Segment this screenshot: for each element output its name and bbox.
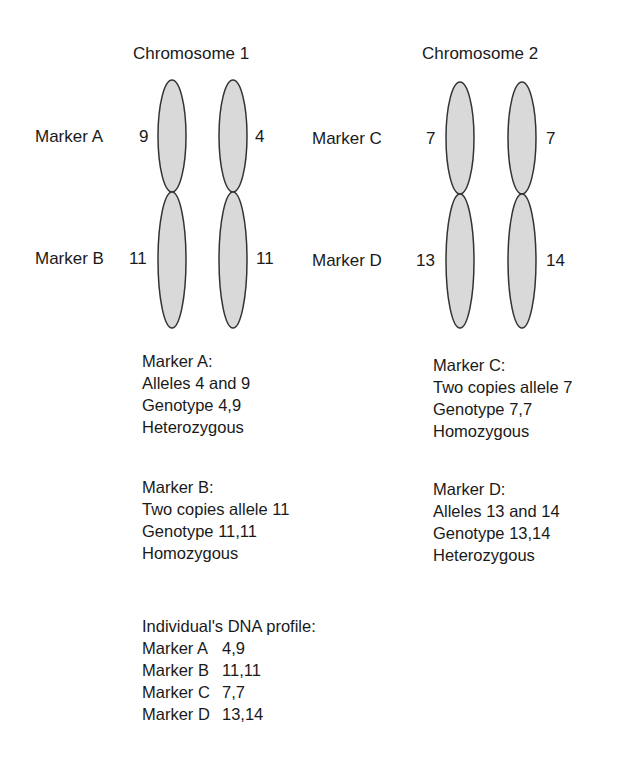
marker-a-summary: Marker A: Alleles 4 and 9 Genotype 4,9 H… [142,350,250,438]
summary-line: Genotype 7,7 [433,398,572,420]
profile-marker: Marker B [142,659,222,681]
chromatid-1a-lower [158,192,186,328]
chromosome-2-title: Chromosome 2 [422,44,538,64]
summary-line: Homozygous [142,542,289,564]
chromatid-1b-upper [219,80,247,192]
chromosome-1 [158,80,247,328]
summary-line: Genotype 13,14 [433,522,560,544]
marker-d-right-allele: 14 [546,251,565,271]
marker-c-left-allele: 7 [426,129,435,149]
summary-line: Alleles 4 and 9 [142,372,250,394]
chromatid-1b-lower [219,192,247,328]
marker-a-left-allele: 9 [139,127,148,147]
marker-d-left-allele: 13 [416,251,435,271]
chromosome-1-title: Chromosome 1 [133,44,249,64]
chromatid-2b-lower [508,194,536,328]
chromatid-2b-upper [508,82,536,194]
marker-b-summary: Marker B: Two copies allele 11 Genotype … [142,476,289,564]
chromatid-2a-upper [446,82,474,194]
summary-line: Two copies allele 11 [142,498,289,520]
marker-c-summary: Marker C: Two copies allele 7 Genotype 7… [433,354,572,442]
profile-row: Marker A 4,9 [142,637,316,659]
summary-heading: Marker D: [433,478,560,500]
profile-genotype: 7,7 [222,681,245,703]
marker-c-label: Marker C [312,129,382,149]
summary-line: Heterozygous [433,544,560,566]
marker-c-right-allele: 7 [546,129,555,149]
profile-row: Marker B 11,11 [142,659,316,681]
summary-line: Alleles 13 and 14 [433,500,560,522]
summary-line: Homozygous [433,420,572,442]
profile-row: Marker C 7,7 [142,681,316,703]
marker-d-label: Marker D [312,251,382,271]
summary-heading: Marker A: [142,350,250,372]
chromosome-2 [446,82,536,328]
profile-genotype: 4,9 [222,637,245,659]
profile-row: Marker D 13,14 [142,703,316,725]
summary-line: Two copies allele 7 [433,376,572,398]
summary-line: Heterozygous [142,416,250,438]
marker-a-label: Marker A [35,127,103,147]
dna-profile-title: Individual's DNA profile: [142,615,316,637]
marker-b-label: Marker B [35,249,104,269]
marker-b-left-allele: 11 [129,249,147,269]
marker-d-summary: Marker D: Alleles 13 and 14 Genotype 13,… [433,478,560,566]
profile-genotype: 11,11 [222,659,261,681]
dna-profile: Individual's DNA profile: Marker A 4,9 M… [142,615,316,725]
profile-marker: Marker A [142,637,222,659]
profile-marker: Marker D [142,703,222,725]
marker-a-right-allele: 4 [255,127,264,147]
summary-heading: Marker B: [142,476,289,498]
profile-marker: Marker C [142,681,222,703]
chromatid-2a-lower [446,194,474,328]
summary-line: Genotype 4,9 [142,394,250,416]
summary-line: Genotype 11,11 [142,520,289,542]
summary-heading: Marker C: [433,354,572,376]
marker-b-right-allele: 11 [256,249,274,269]
chromatid-1a-upper [158,80,186,192]
profile-genotype: 13,14 [222,703,263,725]
